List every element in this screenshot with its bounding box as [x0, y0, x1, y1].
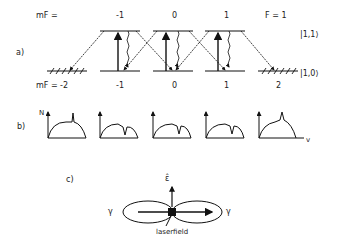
laserfield-caption: laserfield [156, 228, 188, 236]
lower-state-label: |1,0⟩ [300, 69, 319, 78]
panel-a: a) mF = -1 0 1 F = 1 |1,1⟩ |1,0⟩ mF = -2… [16, 11, 319, 90]
decay-paths [70, 31, 274, 70]
mf-top-label: mF = [36, 11, 58, 20]
lower-mf-minus1: -1 [116, 81, 124, 90]
y-axis-label: N [39, 109, 44, 117]
velocity-profiles [48, 112, 304, 138]
upper-state-label: |1,1⟩ [300, 30, 319, 39]
panel-c: c) ε̂ γ γ laserfield [66, 173, 231, 236]
lower-mf-2: 2 [276, 81, 281, 90]
panel-b: b) N v [17, 109, 310, 144]
upper-mf-0: 0 [172, 11, 177, 20]
panel-c-label: c) [66, 175, 74, 184]
atom-marker [168, 208, 176, 216]
lower-mf-0: 0 [172, 81, 177, 90]
polarization-label: ε̂ [165, 173, 169, 183]
x-axis-label: v [306, 136, 310, 144]
panel-a-label: a) [16, 48, 24, 57]
energy-levels [47, 31, 298, 71]
lower-mf-minus2: -2 [60, 81, 68, 90]
dipole-pattern [123, 187, 222, 226]
lower-mf-1: 1 [224, 81, 229, 90]
upper-mf-1: 1 [224, 11, 229, 20]
f-label: F = 1 [265, 11, 286, 20]
upper-mf-minus1: -1 [116, 11, 124, 20]
panel-b-label: b) [17, 122, 25, 131]
gamma-right-label: γ [226, 207, 231, 216]
mf-bottom-label: mF = [36, 81, 58, 90]
gamma-left-label: γ [108, 207, 113, 216]
optical-pumping-diagram: a) mF = -1 0 1 F = 1 |1,1⟩ |1,0⟩ mF = -2… [0, 0, 339, 240]
